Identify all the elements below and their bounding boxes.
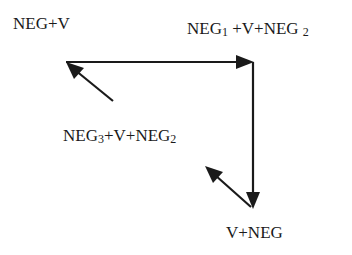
subscript-2: 2 [170,132,176,146]
node-neg-v-text: NEG+V [13,14,70,33]
node-neg1-v-neg2: NEG1 +V+NEG 2 [187,20,309,37]
subscript-3: 3 [98,132,104,146]
diagonal-arrow-lower [205,166,251,207]
node-v-neg: V+NEG [226,224,283,241]
node-neg-v: NEG+V [13,15,70,32]
node-v-neg-text: V+NEG [226,223,283,242]
diagonal-arrow-upper [66,62,113,101]
node-neg3-v-neg2: NEG3+V+NEG2 [63,127,176,144]
node-part: NEG [187,19,222,38]
subscript-2: 2 [303,25,309,39]
node-part: NEG [63,126,98,145]
negation-cycle-diagram: NEG+V NEG1 +V+NEG 2 NEG3+V+NEG2 V+NEG [0,0,352,255]
subscript-1: 1 [222,25,228,39]
horizontal-arrow [66,55,254,69]
vertical-arrow [246,62,260,209]
node-part: +V+NEG [104,126,170,145]
node-part: +V+NEG [228,19,303,38]
